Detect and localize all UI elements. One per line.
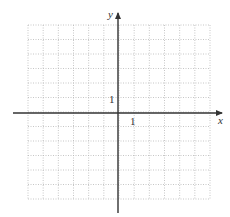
grid-lines [28, 25, 210, 199]
y-tick-label: 1 [109, 93, 115, 105]
x-tick-label: 1 [130, 115, 136, 127]
coordinate-plane: y x 1 1 [0, 0, 230, 217]
x-axis-label: x [217, 114, 223, 126]
y-axis-label: y [107, 8, 113, 20]
